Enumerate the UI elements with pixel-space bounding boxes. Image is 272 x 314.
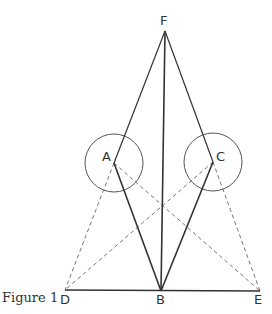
segment-a-b (114, 163, 161, 291)
figure-caption: Figure 1 (2, 290, 58, 305)
segment-a-d (65, 163, 114, 290)
label-f: F (160, 13, 167, 28)
segment-c-e (213, 162, 260, 291)
solid-lines (65, 31, 260, 291)
label-c: C (216, 149, 225, 164)
segment-c-d (65, 162, 213, 290)
label-a: A (102, 149, 111, 164)
segment-c-b (161, 162, 213, 291)
label-e: E (254, 292, 262, 307)
segment-f-c (165, 31, 213, 162)
label-b: B (156, 292, 165, 307)
label-d: D (60, 292, 70, 307)
geometry-diagram: F A C D B E Figure 1 (0, 0, 272, 314)
segment-d-e (65, 290, 260, 291)
segment-f-a (114, 31, 165, 163)
segment-f-b (161, 31, 165, 291)
